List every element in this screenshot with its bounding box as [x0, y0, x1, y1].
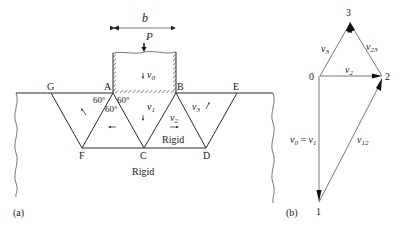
rigid-label-lower: Rigid — [132, 166, 154, 177]
point-d: D — [203, 150, 210, 161]
point-a: A — [104, 81, 112, 92]
label-v0-eq-v1: v0 = v1 — [290, 134, 317, 147]
svg-text:v3: v3 — [192, 101, 200, 114]
svg-text:v0: v0 — [147, 69, 155, 82]
velocity-left-wedge — [81, 108, 86, 115]
diagram-canvas: b P G A B E F C D 60° 60° 60° v0 — [0, 0, 402, 232]
velocity-v3: v3 — [192, 101, 210, 114]
figure-b-caption: (b) — [286, 207, 298, 219]
figure-a: b P G A B E F C D 60° 60° 60° v0 — [13, 11, 274, 219]
right-wavy-edge — [272, 93, 274, 203]
svg-text:v1: v1 — [147, 101, 155, 114]
angle-label-2: 60° — [117, 95, 130, 105]
point-c: C — [140, 150, 147, 161]
vector-v12 — [319, 84, 380, 202]
velocity-left-triangle — [108, 126, 116, 128]
load-p-label: P — [145, 30, 153, 42]
dimension-b-label: b — [142, 11, 148, 25]
angle-label-3: 60° — [105, 104, 118, 114]
velocity-v0: v0 — [142, 69, 156, 82]
footing-base-hatch — [113, 90, 176, 93]
point-g: G — [47, 81, 54, 92]
label-v2: v2 — [345, 64, 353, 77]
velocity-v2: v2 — [170, 112, 179, 128]
footing — [113, 52, 176, 93]
svg-text:v2: v2 — [170, 112, 178, 125]
rigid-label-upper: Rigid — [162, 134, 184, 145]
figure-a-caption: (a) — [13, 207, 24, 219]
node-1: 1 — [316, 206, 321, 217]
velocity-v1: v1 — [142, 101, 155, 121]
point-e: E — [233, 81, 239, 92]
node-2: 2 — [385, 71, 390, 82]
left-wavy-edge — [15, 93, 17, 197]
point-b: B — [177, 81, 184, 92]
node-3: 3 — [346, 7, 351, 18]
failure-mechanism — [51, 93, 237, 148]
label-v12: v12 — [357, 134, 369, 147]
figure-b-hodograph: 0 1 2 3 v3 v23 v2 v12 v0 = v1 (b) — [286, 7, 390, 219]
label-v3: v3 — [321, 43, 329, 56]
node-0: 0 — [309, 71, 314, 82]
footing-top — [113, 52, 176, 54]
point-f: F — [79, 150, 85, 161]
